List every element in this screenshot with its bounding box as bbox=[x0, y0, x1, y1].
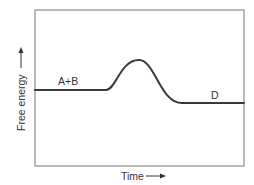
arrow-up-icon bbox=[19, 47, 24, 68]
x-axis-title: Time bbox=[121, 170, 166, 182]
products-label: D bbox=[211, 89, 219, 101]
y-axis-title: Free energy bbox=[15, 47, 27, 131]
plot-frame bbox=[35, 10, 244, 166]
energy-diagram: A+B D Free energy Time bbox=[0, 0, 254, 185]
reactants-label: A+B bbox=[58, 75, 78, 87]
y-axis-label: Free energy bbox=[15, 74, 27, 131]
x-axis-label: Time bbox=[121, 170, 144, 182]
arrow-right-icon bbox=[146, 174, 166, 179]
